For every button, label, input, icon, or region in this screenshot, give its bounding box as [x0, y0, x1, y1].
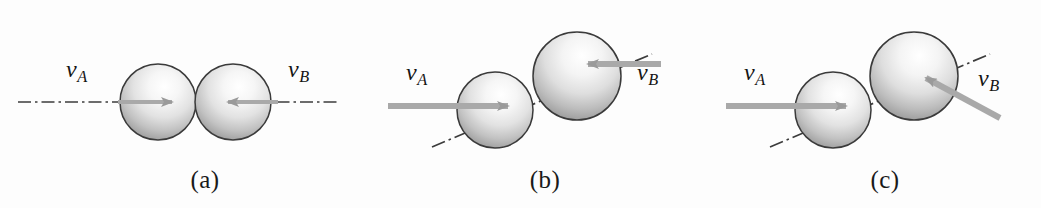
collision-figure: vA vB vA vB vA vB (a) (b) (c) [0, 0, 1041, 208]
panel-a-label-vb: vB [288, 57, 309, 85]
panel-b-label-vb: vB [637, 60, 658, 88]
panel-c-label-vb: vB [978, 66, 999, 94]
panel-a-caption: (a) [165, 166, 245, 194]
panel-a-label-va: vA [66, 57, 87, 85]
panel-b-caption: (b) [505, 166, 585, 194]
panel-c-group [726, 32, 1000, 148]
panel-c-sphere-a [795, 72, 871, 148]
panel-c-label-va: vA [744, 60, 765, 88]
panel-c-caption: (c) [845, 166, 925, 194]
panel-b-sphere-a [457, 72, 533, 148]
panel-b-sphere-b [533, 32, 621, 120]
panel-b-label-va: vA [406, 60, 427, 88]
panel-c-sphere-b [870, 32, 958, 120]
panel-b-group [388, 32, 661, 148]
